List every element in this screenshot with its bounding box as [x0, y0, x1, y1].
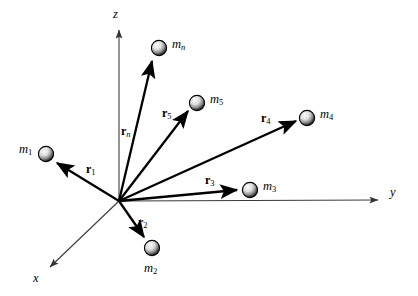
- vector-r3-arrow: [119, 190, 237, 201]
- mass-ball-mn: [151, 40, 166, 55]
- axis-label-x: x: [33, 272, 39, 285]
- mass-label-m2: m2: [144, 262, 157, 276]
- mass-label-m1: m1: [19, 143, 32, 157]
- vector-label-r4: r4: [261, 112, 271, 126]
- vector-label-r5: r5: [162, 107, 172, 121]
- y-axis-line: [119, 200, 378, 201]
- masses-group: [38, 40, 314, 255]
- physics-diagram-figure: z y x r1 r2 r3 r4 r5 rn m1 m2 m3 m4 m5 m…: [0, 0, 418, 296]
- mass-ball-m3: [242, 182, 257, 197]
- mass-ball-m4: [299, 110, 314, 125]
- x-axis-line: [50, 201, 119, 267]
- vector-label-r2: r2: [138, 216, 148, 230]
- mass-ball-m2: [144, 240, 159, 255]
- axis-label-z: z: [113, 8, 118, 21]
- diagram-canvas: [0, 0, 418, 296]
- vectors-group: [57, 61, 296, 237]
- mass-ball-m1: [38, 146, 53, 161]
- mass-ball-m5: [189, 95, 204, 110]
- vector-label-r1: r1: [86, 163, 96, 177]
- axes-group: [50, 30, 378, 267]
- mass-label-mn: mn: [172, 38, 185, 52]
- mass-label-m5: m5: [210, 93, 223, 107]
- mass-label-m4: m4: [320, 108, 333, 122]
- vector-label-rn: rn: [121, 125, 131, 139]
- axis-label-y: y: [390, 186, 396, 199]
- mass-label-m3: m3: [263, 180, 276, 194]
- vector-label-r3: r3: [205, 174, 215, 188]
